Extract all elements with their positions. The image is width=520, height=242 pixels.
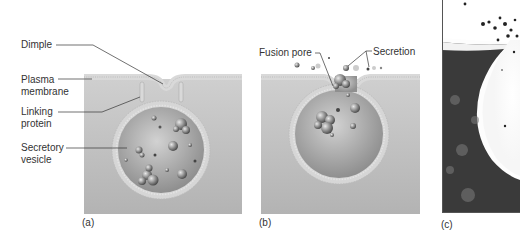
exocytosis-diagram — [0, 0, 520, 242]
panel-a — [56, 45, 242, 214]
label-plasma-membrane: Plasma membrane — [21, 74, 69, 98]
panel-label-c: (c) — [441, 219, 453, 230]
panel-c-micrograph — [442, 0, 520, 213]
label-secretory-vesicle: Secretory vesicle — [21, 142, 64, 166]
panel-label-a: (a) — [82, 217, 94, 228]
label-secretion: Secretion — [373, 46, 415, 58]
label-fusion-pore: Fusion pore — [259, 47, 312, 59]
panel-b — [261, 51, 420, 214]
label-linking-protein: Linking protein — [21, 106, 53, 130]
panel-label-b: (b) — [259, 217, 271, 228]
label-dimple: Dimple — [21, 39, 52, 51]
